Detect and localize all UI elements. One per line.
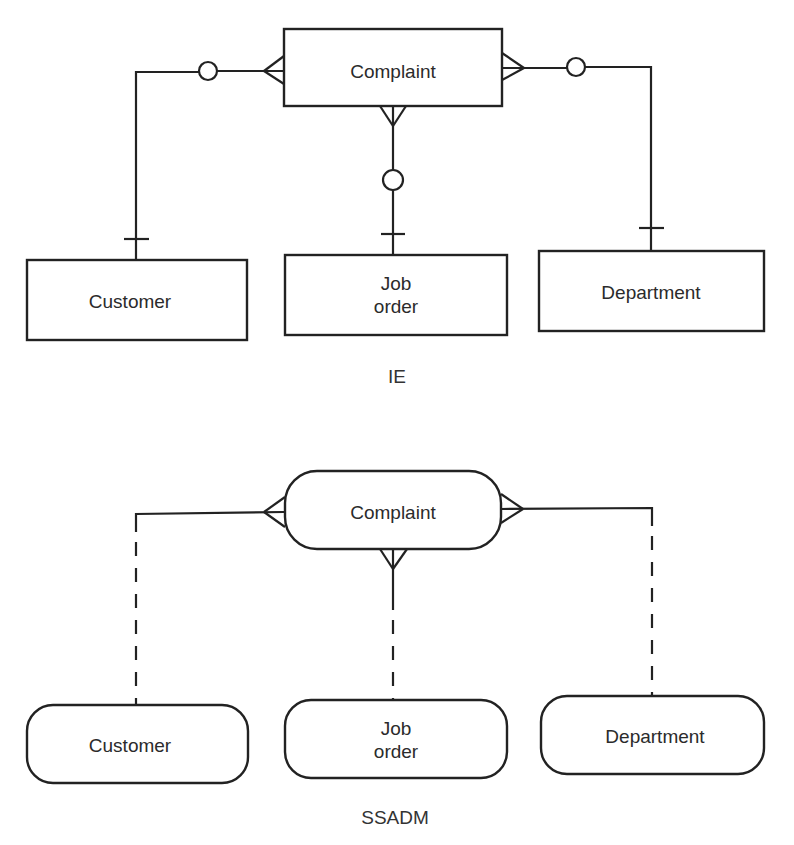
ie-entity-department: Department [539,251,764,331]
ssadm-department-label: Department [605,726,705,747]
ie-entity-complaint: Complaint [284,29,502,106]
ssadm-job-order-label-line1: Job [381,718,412,739]
ie-relationship-joborder-complaint [380,106,406,255]
ie-relationship-department-complaint [502,53,664,251]
ie-entity-job-order: Job order [285,255,507,335]
ie-customer-label: Customer [89,291,172,312]
ssadm-entity-customer: Customer [27,705,248,783]
ssadm-relationship-joborder-complaint [380,549,407,700]
ssadm-caption: SSADM [361,807,429,828]
ie-entity-customer: Customer [27,260,247,340]
ssadm-relationship-department-complaint [501,494,652,696]
ie-job-order-label-line1: Job [381,273,412,294]
crows-foot-icon [502,53,524,80]
optional-circle-icon [199,62,217,80]
ssadm-customer-label: Customer [89,735,172,756]
ssadm-diagram: Complaint Customer Job order Department [27,471,764,828]
ssadm-relationship-customer-complaint [136,497,285,705]
ie-job-order-label-line2: order [374,296,419,317]
ie-complaint-label: Complaint [350,61,436,82]
ssadm-job-order-label-line2: order [374,741,419,762]
ssadm-complaint-label: Complaint [350,502,436,523]
ie-caption: IE [388,366,406,387]
optional-circle-icon [383,170,403,190]
ssadm-entity-job-order: Job order [285,700,507,778]
ssadm-entity-department: Department [541,696,764,774]
ie-relationship-customer-complaint [124,56,284,260]
er-diagram-canvas: Complaint Customer Job order Department [0,0,794,845]
optional-circle-icon [567,58,585,76]
ssadm-entity-complaint: Complaint [285,471,501,549]
ie-department-label: Department [601,282,701,303]
ie-diagram: Complaint Customer Job order Department [27,29,764,387]
